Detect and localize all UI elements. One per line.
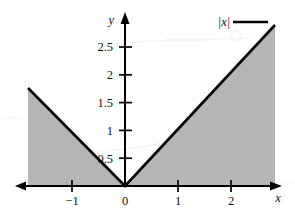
legend-label-abs-x: |x| (218, 15, 230, 29)
x-tick-label-0: 0 (122, 194, 128, 208)
y-tick-label-1: 1 (107, 124, 113, 138)
y-tick-label-1.5: 1.5 (97, 96, 113, 110)
x-tick-label-2: 2 (228, 194, 234, 208)
y-tick-label-2: 2 (107, 68, 113, 82)
y-axis-label: y (106, 13, 114, 27)
x-tick-label--1: −1 (65, 194, 78, 208)
x-axis-label: x (274, 191, 281, 205)
y-tick-label-2.5: 2.5 (97, 40, 113, 54)
x-tick-label-1: 1 (175, 194, 181, 208)
absolute-value-function-plot: 0.5 1 1.5 2 2.5 −1 0 1 2 y x |x| (0, 0, 295, 213)
y-tick-label-0.5: 0.5 (97, 152, 113, 166)
